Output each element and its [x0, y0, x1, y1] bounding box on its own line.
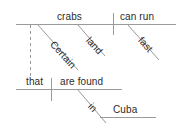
word-subject-crabs: crabs	[57, 12, 82, 22]
sentence-diagram: crabs can run Certain land fast that are…	[0, 0, 181, 134]
word-relative-pronoun-that: that	[26, 77, 43, 87]
word-predicate-can-run: can run	[120, 12, 154, 22]
word-object-cuba: Cuba	[113, 105, 137, 115]
word-relative-verb-are-found: are found	[60, 77, 103, 87]
